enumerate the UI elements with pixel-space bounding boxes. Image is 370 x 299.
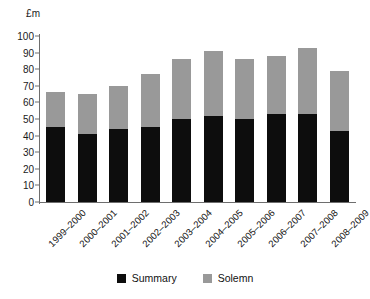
legend-label: Summary bbox=[132, 272, 177, 284]
y-tick-label-20: 20 bbox=[23, 163, 34, 174]
bar-slot bbox=[324, 36, 356, 202]
legend-item[interactable]: Solemn bbox=[203, 272, 254, 284]
bar-slot bbox=[261, 36, 293, 202]
y-tick-label-40: 40 bbox=[23, 130, 34, 141]
legend-label: Solemn bbox=[218, 272, 254, 284]
bar-segment-solemn[interactable] bbox=[330, 71, 349, 131]
bar-slot bbox=[166, 36, 198, 202]
bar-segment-summary[interactable] bbox=[109, 129, 128, 202]
stacked-bar[interactable] bbox=[298, 48, 317, 202]
stacked-bar[interactable] bbox=[46, 92, 65, 202]
bar-slot bbox=[103, 36, 135, 202]
y-tick-label-60: 60 bbox=[23, 97, 34, 108]
bar-segment-solemn[interactable] bbox=[235, 59, 254, 119]
bar-segment-summary[interactable] bbox=[267, 114, 286, 202]
stacked-bar[interactable] bbox=[172, 59, 191, 202]
bar-segment-summary[interactable] bbox=[78, 134, 97, 202]
solemn-swatch bbox=[203, 274, 212, 283]
bar-segment-solemn[interactable] bbox=[78, 94, 97, 134]
stacked-bar[interactable] bbox=[141, 74, 160, 202]
bar-segment-summary[interactable] bbox=[141, 127, 160, 202]
bar-slot bbox=[40, 36, 72, 202]
bar-segment-summary[interactable] bbox=[330, 131, 349, 202]
bar-slot bbox=[72, 36, 104, 202]
stacked-bar[interactable] bbox=[235, 59, 254, 202]
bar-slot bbox=[135, 36, 167, 202]
bar-segment-solemn[interactable] bbox=[204, 51, 223, 116]
bar-segment-summary[interactable] bbox=[235, 119, 254, 202]
y-tick-label-30: 30 bbox=[23, 147, 34, 158]
y-tick-label-100: 100 bbox=[17, 31, 34, 42]
y-tick-label-10: 10 bbox=[23, 180, 34, 191]
y-tick-label-80: 80 bbox=[23, 64, 34, 75]
bar-segment-summary[interactable] bbox=[172, 119, 191, 202]
bar-segment-solemn[interactable] bbox=[267, 56, 286, 114]
y-axis-tick-labels: 1009080706050403020100 bbox=[0, 0, 34, 299]
bar-slot bbox=[229, 36, 261, 202]
x-axis-line bbox=[39, 202, 356, 203]
bar-segment-solemn[interactable] bbox=[172, 59, 191, 119]
stacked-bar[interactable] bbox=[267, 56, 286, 202]
summary-swatch bbox=[117, 274, 126, 283]
y-tick-label-50: 50 bbox=[23, 114, 34, 125]
y-tick-label-70: 70 bbox=[23, 80, 34, 91]
bar-segment-solemn[interactable] bbox=[298, 48, 317, 114]
bars-container bbox=[40, 36, 355, 202]
bar-segment-solemn[interactable] bbox=[141, 74, 160, 127]
stacked-bar[interactable] bbox=[330, 71, 349, 202]
bar-segment-solemn[interactable] bbox=[109, 86, 128, 129]
stacked-bar[interactable] bbox=[109, 86, 128, 202]
y-tick-label-0: 0 bbox=[28, 197, 34, 208]
chart-legend: SummarySolemn bbox=[0, 272, 370, 284]
y-tick-label-90: 90 bbox=[23, 47, 34, 58]
bar-segment-summary[interactable] bbox=[46, 127, 65, 202]
bar-segment-summary[interactable] bbox=[204, 116, 223, 202]
bar-segment-summary[interactable] bbox=[298, 114, 317, 202]
bar-segment-solemn[interactable] bbox=[46, 92, 65, 127]
bar-slot bbox=[198, 36, 230, 202]
stacked-bar[interactable] bbox=[78, 94, 97, 202]
bar-slot bbox=[292, 36, 324, 202]
legend-item[interactable]: Summary bbox=[117, 272, 177, 284]
stacked-bar[interactable] bbox=[204, 51, 223, 202]
stacked-bar-chart: £m 1009080706050403020100 1999–20002000–… bbox=[0, 0, 370, 299]
